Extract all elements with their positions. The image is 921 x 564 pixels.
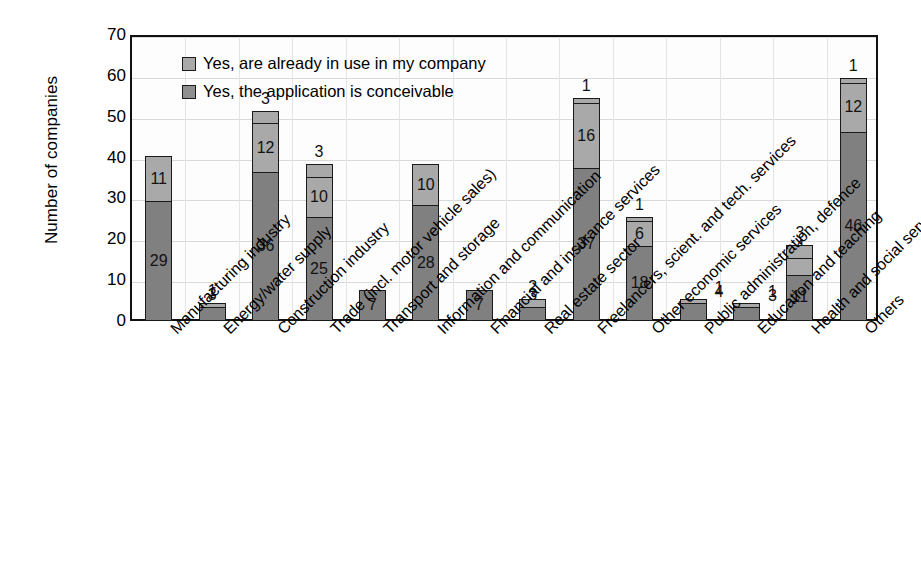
y-axis-tick-label: 60 [92,67,126,84]
legend-item-conceivable: Yes, the application is conceivable [182,82,486,101]
bar-segment[interactable]: 1 [840,78,867,84]
bar-segment[interactable]: 11 [145,156,172,202]
bar-segment-value-label: 1 [582,78,591,94]
legend-item-in-use: Yes, are already in use in my company [182,54,486,73]
legend-item-label: Yes, the application is conceivable [203,82,454,101]
gridline [132,119,876,120]
y-axis-tick-label: 30 [92,189,126,206]
x-axis-tick-labels: Manufacturing industryEnergy/water suppl… [130,325,878,560]
y-axis-tick-label: 70 [92,26,126,43]
bar-segment[interactable]: 3 [252,111,279,125]
bar-segment-value-label: 10 [417,177,435,193]
x-axis-tick-label: Education and teaching [754,325,766,337]
bar-segment[interactable]: 10 [412,164,439,206]
bar-segment-value-label: 16 [577,128,595,144]
x-axis-tick-label: Other economic services [648,325,660,337]
y-axis-tick-label: 10 [92,271,126,288]
vertical-gridline [559,37,560,319]
gridline [132,37,876,38]
legend: Yes, are already in use in my company Ye… [182,54,486,101]
bar-segment-value-label: 10 [310,189,328,205]
x-axis-tick-label: Manufacturing industry [167,325,179,337]
legend-item-label: Yes, are already in use in my company [203,54,486,73]
legend-swatch-icon [182,57,196,71]
vertical-gridline [666,37,667,319]
y-axis-title: Number of companies [42,30,62,290]
bar-segment[interactable]: 1 [626,217,653,223]
y-axis-tick-label: 40 [92,149,126,166]
x-axis-tick-label: Financial and insurance services [487,325,499,337]
x-axis-tick-label: Health and social services [808,325,820,337]
x-axis-tick-label: Energy/water supply [220,325,232,337]
y-axis-tick-label: 0 [92,312,126,329]
x-axis-tick-label: Information and communication [434,325,446,337]
bar-segment-value-label: 11 [150,171,167,187]
x-axis-tick-label: Others [861,325,873,337]
x-axis-tick-label: Real estate sector [541,325,553,337]
x-axis-tick-label: Transport and storage [380,325,392,337]
gridline [132,200,876,201]
x-axis-tick-label: Public administration, defence [701,325,713,337]
bar-segment-value-label: 3 [315,144,324,160]
gridline [132,241,876,242]
bar-segment[interactable]: 10 [306,176,333,218]
bar-segment[interactable]: 16 [573,102,600,169]
bar-segment[interactable]: 3 [306,164,333,178]
legend-swatch-icon [182,85,196,99]
vertical-gridline [827,37,828,319]
x-axis-tick-label: Trade (incl. motor vehicle sales) [327,325,339,337]
bar-segment[interactable]: 1 [573,98,600,104]
x-axis-tick-label: Construction industry [274,325,286,337]
y-axis-tick-label: 50 [92,108,126,125]
x-axis-tick-label: Freelancers, scient. and tech. services [594,325,606,337]
bar-segment-value-label: 12 [844,99,862,115]
bar-segment[interactable]: 29 [145,201,172,321]
bar-group[interactable]: 2911 [145,156,172,319]
y-axis-tick-label: 20 [92,230,126,247]
bar-segment-value-label: 28 [417,255,435,271]
bar-segment-value-label: 1 [849,58,858,74]
bar-segment[interactable]: 12 [840,82,867,133]
bar-segment-value-label: 12 [257,140,275,156]
bar-segment[interactable]: 12 [252,123,279,174]
stacked-bar-chart: Number of companies 706050403020100 2911… [0,0,921,564]
bar-segment-value-label: 29 [150,253,168,269]
